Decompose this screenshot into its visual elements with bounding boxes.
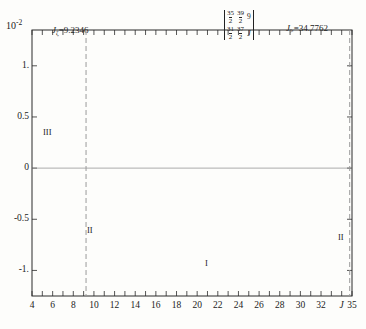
y-tick-label-0: 0: [2, 162, 29, 172]
turning-point-lines: [86, 30, 350, 296]
x-axis-ticks: [32, 30, 352, 296]
plot-frame: [32, 30, 352, 296]
x-tick-label-32: 32: [315, 300, 327, 310]
x-tick-label-4: 4: [26, 300, 38, 310]
x-tick-label-18: 18: [171, 300, 183, 310]
y-tick-label-1.: 1.: [2, 60, 29, 70]
x-tick-label-35: 35: [346, 300, 358, 310]
x-tick-label-8: 8: [67, 300, 79, 310]
plot-canvas: [0, 0, 366, 329]
x-tick-label-26: 26: [253, 300, 265, 310]
x-tick-label-10: 10: [88, 300, 100, 310]
x-tick-label-16: 16: [150, 300, 162, 310]
y-tick-label--1.: -1.: [2, 264, 29, 274]
x-tick-label-14: 14: [129, 300, 141, 310]
x-tick-label-30: 30: [294, 300, 306, 310]
x-tick-label-28: 28: [274, 300, 286, 310]
x-tick-label-20: 20: [191, 300, 203, 310]
x-tick-label-6: 6: [47, 300, 59, 310]
x-tick-label-22: 22: [212, 300, 224, 310]
figure-root: 10-2 Jζ=9.2346 J>=34.7762 352 312 392 37…: [0, 0, 366, 329]
y-tick-label-0.5: 0.5: [2, 111, 29, 121]
x-tick-label-24: 24: [232, 300, 244, 310]
x-tick-label-12: 12: [109, 300, 121, 310]
y-tick-label--0.5: -0.5: [2, 213, 29, 223]
